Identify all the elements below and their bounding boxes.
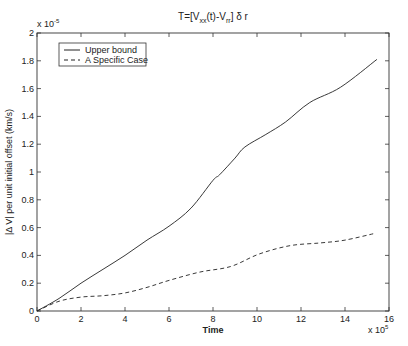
y-multiplier: x 10-5	[37, 18, 60, 29]
x-tick-label: 0	[34, 314, 39, 324]
x-axis-label: Time	[203, 325, 224, 335]
y-tick-label: 2	[29, 28, 34, 38]
axes	[37, 33, 389, 311]
x-tick-label: 10	[252, 314, 262, 324]
line-chart: T=[Vxx(t)-Vrr] δ r x 10-5 x 105 Time |Δ …	[0, 0, 408, 346]
x-tick-label: 4	[122, 314, 127, 324]
y-tick-label: 0.4	[21, 250, 34, 260]
series-line-upper-bound	[37, 59, 377, 311]
x-tick-label: 14	[340, 314, 350, 324]
x-tick-label: 12	[296, 314, 306, 324]
series-line-a-specific-case	[37, 233, 376, 311]
series-group	[37, 59, 377, 311]
y-tick-label: 1.8	[21, 56, 34, 66]
y-tick-label: 1.4	[21, 111, 34, 121]
y-tick-label: 0.2	[21, 278, 34, 288]
x-multiplier: x 105	[368, 324, 389, 335]
chart-title: T=[Vxx(t)-Vrr] δ r	[178, 11, 248, 24]
y-axis-label: |Δ V| per unit initial offset (km/s)	[4, 109, 14, 235]
plot-frame	[37, 33, 389, 311]
ticks: 024681012141600.20.40.60.811.21.41.61.82	[21, 28, 394, 324]
x-tick-label: 8	[210, 314, 215, 324]
y-tick-label: 0	[29, 306, 34, 316]
y-tick-label: 0.6	[21, 223, 34, 233]
x-tick-label: 16	[384, 314, 394, 324]
legend-label-specific-case: A Specific Case	[85, 55, 148, 65]
y-tick-label: 1.6	[21, 84, 34, 94]
y-tick-label: 0.8	[21, 195, 34, 205]
y-tick-label: 1	[29, 167, 34, 177]
x-tick-label: 2	[78, 314, 83, 324]
legend: Upper bound A Specific Case	[59, 43, 148, 66]
legend-label-upper-bound: Upper bound	[85, 45, 137, 55]
y-tick-label: 1.2	[21, 139, 34, 149]
x-tick-label: 6	[166, 314, 171, 324]
